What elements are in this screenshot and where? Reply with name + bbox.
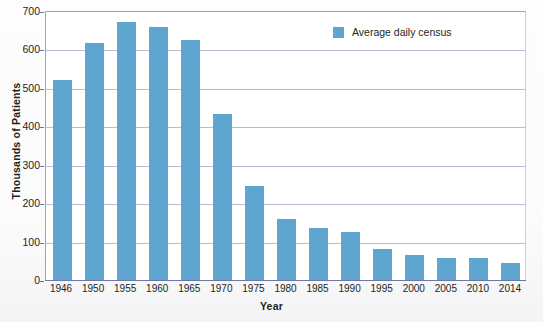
bar-1955 <box>117 22 136 280</box>
x-axis-line <box>45 280 526 281</box>
y-tick-label-500: 500 <box>6 82 40 94</box>
bar-1980 <box>277 219 296 280</box>
bar-2014 <box>501 263 520 280</box>
bar-1990 <box>341 232 360 280</box>
legend-color-swatch <box>333 27 344 38</box>
y-tick-mark-500 <box>40 89 44 90</box>
y-tick-label-700: 700 <box>6 5 40 17</box>
bar-2000 <box>405 255 424 280</box>
y-tick-mark-600 <box>40 50 44 51</box>
x-axis-title: Year <box>0 300 543 312</box>
chart-legend: Average daily census <box>333 26 452 38</box>
bar-1975 <box>245 186 264 280</box>
y-tick-label-100: 100 <box>6 236 40 248</box>
bar-1970 <box>213 114 232 280</box>
y-tick-label-200: 200 <box>6 197 40 209</box>
y-tick-mark-100 <box>40 243 44 244</box>
y-tick-mark-400 <box>40 127 44 128</box>
bar-2005 <box>437 258 456 280</box>
legend-label: Average daily census <box>352 26 452 38</box>
y-tick-mark-200 <box>40 204 44 205</box>
bar-1985 <box>309 228 328 280</box>
plot-area <box>45 11 526 280</box>
y-tick-mark-300 <box>40 166 44 167</box>
bar-1950 <box>85 43 104 280</box>
bar-1946 <box>53 80 72 280</box>
bar-1960 <box>149 27 168 280</box>
bar-1965 <box>181 40 200 280</box>
bar-1995 <box>373 249 392 280</box>
y-tick-label-400: 400 <box>6 120 40 132</box>
x-tick-label-2014: 2014 <box>487 283 533 294</box>
bar-chart-figure: Thousands of Patients 010020030040050060… <box>0 0 543 322</box>
y-tick-mark-700 <box>40 12 44 13</box>
y-tick-label-300: 300 <box>6 159 40 171</box>
y-tick-label-600: 600 <box>6 43 40 55</box>
y-axis-title: Thousands of Patients <box>10 41 22 241</box>
bar-2010 <box>469 258 488 280</box>
y-tick-mark-0 <box>40 281 44 282</box>
y-tick-label-0: 0 <box>6 274 40 286</box>
